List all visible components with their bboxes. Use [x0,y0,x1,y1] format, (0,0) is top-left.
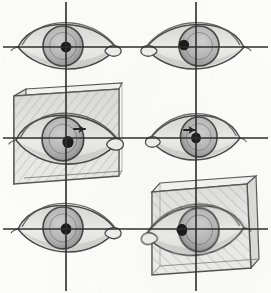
sketch-vector-surface [0,0,271,293]
paper-grain [0,0,271,293]
eye-study-sketch [0,0,271,293]
